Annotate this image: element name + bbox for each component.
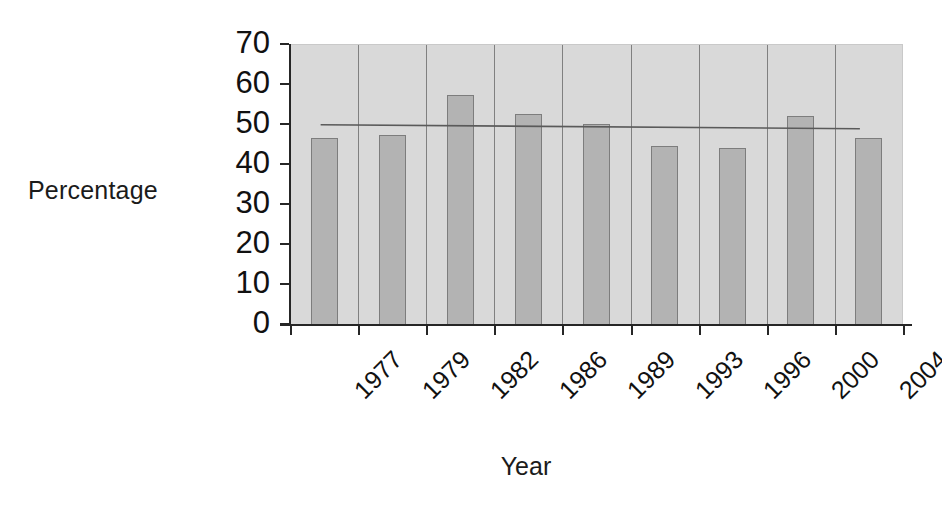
x-axis-tick <box>290 326 292 335</box>
x-axis-tick <box>903 326 905 335</box>
category-gridline <box>358 45 359 324</box>
x-axis-tick <box>562 326 564 335</box>
y-axis-title: Percentage <box>28 176 158 205</box>
bar-1982 <box>447 95 474 324</box>
x-axis-tick <box>358 326 360 335</box>
y-axis-tick <box>280 123 289 125</box>
x-axis-tick <box>699 326 701 335</box>
x-axis-tick-label: 2000 <box>825 345 885 405</box>
x-axis-tick <box>631 326 633 335</box>
x-axis-tick-label: 2004 <box>893 345 942 405</box>
x-axis-tick-label: 1977 <box>348 345 408 405</box>
bar-chart-figure: Percentage 010203040506070 1977197919821… <box>0 0 942 521</box>
x-axis-tick-label: 1993 <box>689 345 749 405</box>
x-axis-tick <box>835 326 837 335</box>
bar-1979 <box>379 135 406 324</box>
y-axis-tick-label: 60 <box>236 67 270 98</box>
y-axis-tick <box>280 323 289 325</box>
y-axis-tick <box>280 283 289 285</box>
y-axis-tick <box>280 43 289 45</box>
y-axis-tick <box>280 83 289 85</box>
y-axis-tick-label: 40 <box>236 147 270 178</box>
bar-1993 <box>651 146 678 324</box>
y-axis-tick-label: 50 <box>236 107 270 138</box>
bar-1996 <box>719 148 746 324</box>
y-axis-tick-label: 70 <box>236 27 270 58</box>
bar-2000 <box>787 116 814 324</box>
x-axis-tick-label: 1989 <box>621 345 681 405</box>
y-axis-tick-label: 0 <box>253 307 270 338</box>
x-axis-tick <box>494 326 496 335</box>
x-axis-title-text: Year <box>391 452 552 480</box>
y-axis-tick-label: 20 <box>236 227 270 258</box>
category-gridline <box>835 45 836 324</box>
x-axis-tick-label: 1996 <box>757 345 817 405</box>
y-axis-spine <box>289 44 291 325</box>
category-gridline <box>631 45 632 324</box>
category-gridline <box>562 45 563 324</box>
category-gridline <box>767 45 768 324</box>
x-axis-tick-label: 1979 <box>416 345 476 405</box>
category-gridline <box>494 45 495 324</box>
x-axis-tick-label: 1986 <box>553 345 613 405</box>
bar-1986 <box>515 114 542 324</box>
y-axis-tick-label: 30 <box>236 187 270 218</box>
x-axis-tick <box>767 326 769 335</box>
y-axis-tick <box>280 203 289 205</box>
category-gridline <box>426 45 427 324</box>
x-axis-title: Year <box>0 452 942 481</box>
bar-2004 <box>855 138 882 324</box>
y-axis-tick-label: 10 <box>236 267 270 298</box>
category-gridline <box>699 45 700 324</box>
x-axis-tick-label: 1982 <box>484 345 544 405</box>
bar-1989 <box>583 124 610 324</box>
bar-1977 <box>311 138 338 324</box>
y-axis-tick <box>280 163 289 165</box>
plot-area <box>290 44 903 324</box>
y-axis-tick <box>280 243 289 245</box>
x-axis-spine <box>280 324 912 326</box>
x-axis-tick <box>426 326 428 335</box>
